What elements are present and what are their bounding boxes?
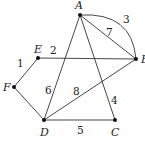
node-B-dot — [134, 57, 138, 61]
weight-label-8: 8 — [73, 86, 80, 97]
edge-F-D — [14, 87, 44, 120]
node-label-C: C — [111, 127, 119, 138]
node-label-F: F — [3, 82, 11, 93]
weight-label-1: 1 — [17, 58, 24, 69]
node-label-D: D — [40, 127, 49, 138]
weight-label-6: 6 — [45, 85, 52, 96]
weight-label-2: 2 — [50, 45, 57, 56]
edge-E-B — [38, 58, 136, 59]
weight-label-4: 4 — [111, 95, 118, 106]
node-D-dot — [42, 118, 46, 122]
node-A-dot — [78, 13, 82, 17]
weight-label-3: 3 — [123, 14, 130, 25]
node-C-dot — [113, 118, 117, 122]
graph-diagram: A B E F D C 1 2 3 4 5 6 7 8 — [0, 0, 145, 144]
edge-D-B — [44, 59, 136, 120]
node-label-E: E — [34, 44, 42, 55]
weight-label-5: 5 — [77, 125, 84, 136]
node-E-dot — [36, 56, 40, 60]
edge-A-D — [44, 15, 80, 120]
weight-label-7: 7 — [106, 27, 113, 38]
node-label-A: A — [75, 0, 83, 11]
node-label-B: B — [141, 54, 145, 65]
node-F-dot — [12, 85, 16, 89]
